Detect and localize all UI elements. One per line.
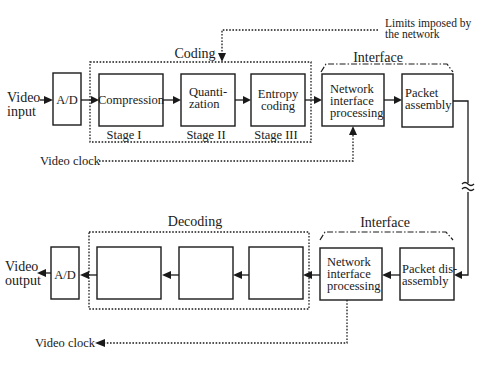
decoder-ad-block: A/D [51, 247, 79, 299]
video-output-label-line1: Video [5, 259, 38, 274]
stage-2-label: Stage II [186, 128, 225, 142]
compression-label: Compression [98, 93, 165, 107]
encoder-video-clock-label: Video clock [40, 154, 101, 168]
packet-disassembly-label-line2: assembly [402, 274, 449, 288]
decoder-interface-label: Interface [360, 215, 410, 230]
network-limits-feedback: Limits imposed by the network [218, 17, 472, 62]
encoder-interface-label: Interface [353, 50, 403, 65]
arrow-icon [44, 96, 53, 104]
arrow-icon [243, 96, 251, 104]
decoder-stage-3-block [249, 247, 303, 299]
limits-label-line2: the network [385, 28, 440, 40]
encoder-ad-block: A/D [53, 73, 81, 125]
decoder-stage-1-block [97, 247, 161, 299]
quantization-block: Quanti- zation Stage II [181, 74, 235, 142]
limits-arrowhead-icon [218, 53, 226, 62]
video-output-label-line2: output [5, 273, 41, 288]
arrow-icon [173, 96, 181, 104]
network-channel [453, 101, 474, 279]
packet-assembly-block: Packet assembly [402, 74, 453, 127]
entropy-label-line2: coding [261, 99, 296, 113]
decoder-network-label-line3: processing [327, 279, 381, 293]
arrow-icon [394, 96, 402, 104]
arrow-icon [162, 271, 171, 279]
stage-1-label: Stage I [106, 128, 141, 142]
encoder-interface-group: Interface [321, 50, 453, 72]
arrow-icon [382, 271, 391, 279]
decoder-row: Interface Packet dis- assembly Network i… [5, 214, 457, 350]
video-input-label-line2: input [7, 104, 36, 119]
decoder-ad-label: A/D [54, 268, 76, 282]
entropy-coding-block: Entropy coding Stage III [251, 74, 305, 142]
quantization-label-line2: zation [189, 97, 220, 111]
channel-break-icon [462, 183, 474, 191]
video-input-label-line1: Video [7, 90, 40, 105]
stage-3-label: Stage III [254, 128, 297, 142]
encoder-network-interface-block: Network interface processing [322, 74, 384, 126]
encoder-network-label-line3: processing [330, 106, 384, 120]
decoder-network-interface-block: Network interface processing [320, 248, 382, 300]
clock-arrowhead-icon [349, 126, 357, 135]
arrow-icon [314, 96, 322, 104]
decoder-video-clock-label: Video clock [35, 336, 96, 350]
packet-disassembly-block: Packet dis- assembly [400, 248, 457, 300]
coding-group-label: Coding [174, 46, 215, 61]
decoder-video-clock: Video clock [35, 300, 347, 350]
arrow-icon [80, 271, 89, 279]
arrow-icon [303, 271, 312, 279]
packet-assembly-label-line2: assembly [405, 98, 452, 112]
encoder-row: Video input A/D Coding Compression Stage… [7, 46, 453, 168]
compression-block: Compression Stage I [98, 74, 165, 142]
encoder-ad-label: A/D [56, 93, 78, 107]
clock-arrowhead-icon [95, 339, 105, 347]
decoder-stage-2-block [179, 247, 233, 299]
decoding-group-label: Decoding [168, 214, 222, 229]
decoder-interface-group: Interface [320, 215, 453, 240]
codec-block-diagram: Limits imposed by the network Video inpu… [0, 0, 497, 369]
arrow-icon [233, 271, 242, 279]
